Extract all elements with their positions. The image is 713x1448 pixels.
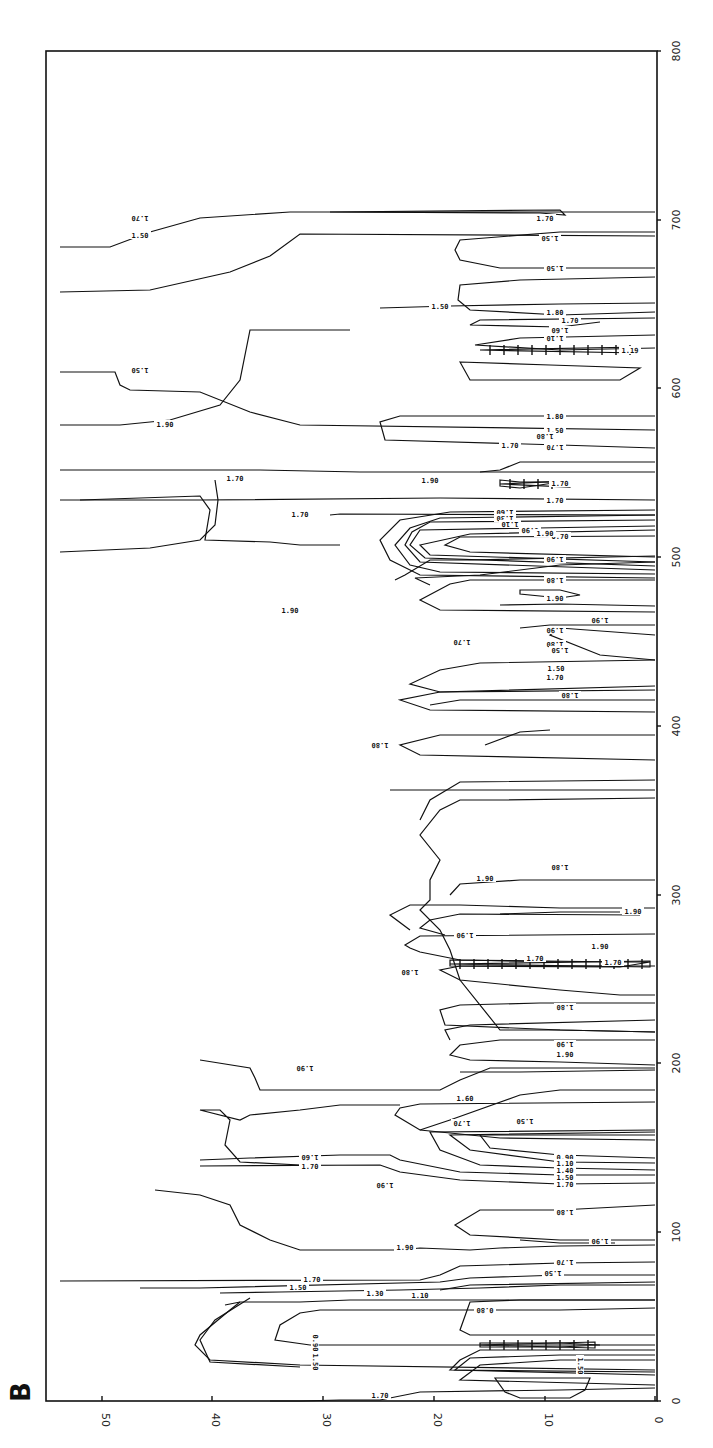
contour-line: [380, 303, 655, 308]
contour-label: 1.50: [545, 1269, 562, 1277]
contour-label: 1.80: [562, 691, 579, 699]
contour-label: 1.50: [432, 303, 449, 311]
contour-label: 1.10: [547, 334, 564, 342]
panel-label: B: [6, 1382, 36, 1402]
contour-line: [460, 362, 640, 380]
contour-line: [420, 914, 640, 935]
contour-line: [225, 1300, 655, 1305]
contour-line: [460, 1070, 655, 1072]
contour-label: 1.70: [304, 1276, 321, 1284]
distance-axis: 0100200300400500600700800: [657, 41, 683, 1405]
contour-chart: 1.701.501.701.501.501.801.501.701.601.10…: [0, 0, 713, 1448]
contour-label: 1.70: [227, 475, 244, 483]
contour-label: 1.90: [592, 616, 609, 624]
contour-label: 1.10: [502, 520, 519, 528]
contour-label: 1.70: [372, 1392, 389, 1400]
contour-line: [500, 912, 620, 914]
contour-label: 1.19: [622, 347, 639, 355]
contour-label: 1.70: [527, 955, 544, 963]
contour-label: 1.80: [402, 968, 419, 976]
contour-label: 1.50: [542, 234, 559, 242]
contour-labels: 1.701.501.701.501.501.801.501.701.601.10…: [129, 214, 644, 1400]
contour-label: 1.50: [132, 232, 149, 240]
contour-label: 1.90: [282, 607, 299, 615]
distance-tick-label: 0: [670, 1398, 683, 1405]
contour-label: 1.50: [547, 264, 564, 272]
depth-tick-label: 20: [431, 1413, 444, 1427]
contour-label: 1.80: [537, 432, 554, 440]
contour-label: 1.70: [547, 443, 564, 451]
contour-label: 1.90: [297, 1064, 314, 1072]
contour-label: 1.70: [292, 511, 309, 519]
contour-label: 1.80: [557, 1003, 574, 1011]
contour-label: 1.70: [454, 638, 471, 646]
contour-line: [440, 966, 655, 995]
contour-line: [450, 1040, 655, 1065]
distance-tick-label: 100: [670, 1222, 683, 1243]
contour-label: 1.70: [547, 497, 564, 505]
contour-line: [60, 330, 350, 425]
depth-tick-label: 10: [542, 1413, 555, 1427]
contour-line: [60, 234, 655, 292]
depth-tick-label: 30: [320, 1413, 333, 1427]
contour-line: [400, 735, 655, 760]
depth-tick-label: 50: [99, 1413, 112, 1427]
contour-label: 1.50: [552, 646, 569, 654]
distance-tick-label: 200: [670, 1053, 683, 1074]
contour-line: [330, 210, 565, 215]
distance-tick-label: 800: [670, 41, 683, 62]
contour-label: 1.80: [372, 741, 389, 749]
contour-line: [60, 372, 655, 430]
distance-tick-label: 500: [670, 547, 683, 568]
contour-label: 1.90: [477, 875, 494, 883]
contour-label: 1.90: [592, 1237, 609, 1245]
contour-line: [60, 470, 655, 472]
contour-label: 1.50: [290, 1284, 307, 1292]
contour-label: 1.30: [367, 1290, 384, 1298]
contour-label: 1.80: [557, 1208, 574, 1216]
contour-label: 0.80: [477, 1306, 494, 1314]
contour-label: 1.50: [517, 1117, 534, 1125]
contour-label: 1.90: [157, 421, 174, 429]
contour-line: [200, 1060, 655, 1090]
contour-label: 1.70: [502, 442, 519, 450]
contour-label: 1.70: [605, 959, 622, 967]
contour-label: 1.70: [132, 214, 149, 222]
contour-line: [480, 462, 655, 472]
distance-tick-label: 600: [670, 378, 683, 399]
contour-lines: [60, 210, 655, 1401]
contour-label: 1.50: [311, 1354, 319, 1371]
contour-line: [200, 1298, 300, 1367]
contour-label: 1.90: [547, 595, 564, 603]
contour-label: 1.50: [548, 665, 565, 673]
contour-label: 1.10: [412, 1292, 429, 1300]
contour-label: 1.50: [132, 366, 149, 374]
contour-label: 1.90: [537, 530, 554, 538]
contour-line: [400, 690, 655, 712]
contour-label: 1.80: [547, 576, 564, 584]
contour-label: 1.90: [547, 555, 564, 563]
contour-label: 1.80: [547, 309, 564, 317]
contour-line: [390, 905, 655, 930]
contour-label: 1.60: [457, 1095, 474, 1103]
contour-label: 1.50: [576, 1358, 584, 1375]
contour-line: [410, 660, 655, 692]
contour-label: 1.90: [557, 1040, 574, 1048]
contour-label: 0.90: [311, 1335, 319, 1352]
contour-line: [330, 514, 655, 515]
contour-label: 1.70: [557, 1181, 574, 1189]
contour-label: 1.70: [562, 317, 579, 325]
contour-line: [460, 1300, 655, 1335]
contour-line: [80, 496, 340, 545]
contour-line: [430, 1130, 655, 1170]
contour-label: 1.60: [552, 326, 569, 334]
distance-tick-label: 400: [670, 716, 683, 737]
contour-line: [485, 730, 550, 745]
plot-frame: [46, 51, 657, 1401]
contour-label: 1.90: [377, 1181, 394, 1189]
depth-tick-label: 40: [209, 1413, 222, 1427]
contour-line: [500, 604, 655, 606]
contour-label: 1.90: [397, 1244, 414, 1252]
contour-label: 1.70: [547, 674, 564, 682]
contour-label: 1.90: [547, 626, 564, 634]
